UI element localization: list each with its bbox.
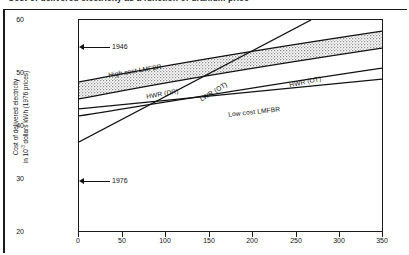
annotation-1946-label: 1946 [112, 43, 128, 50]
x-tick-label-100: 100 [150, 237, 180, 244]
x-tick-label-150: 150 [194, 237, 224, 244]
y-axis-title-line2: in 10-3 dollars kWh (1976 prices) [20, 52, 30, 182]
x-tick-label-250: 250 [281, 237, 311, 244]
annotation-1946-line [84, 47, 110, 48]
figure-caption-truncated: Cost of delivered electricity as a funct… [0, 0, 409, 7]
x-tick-label-0: 0 [63, 237, 93, 244]
figure-caption-text: Cost of delivered electricity as a funct… [8, 0, 249, 3]
curves-svg [79, 20, 382, 231]
x-tick-label-200: 200 [237, 237, 267, 244]
annotation-1976-line [84, 181, 110, 182]
x-tick-label-350: 350 [367, 237, 397, 244]
figure-uranium-price-electricity-cost: Cost of delivered electricity as a funct… [0, 0, 409, 255]
lmfbr-band [79, 31, 382, 99]
annotation-1976-label: 1976 [112, 177, 128, 184]
y-axis-title: Cost of delivered electricity in 10-3 do… [12, 52, 30, 182]
y-axis-title-line1: Cost of delivered electricity [12, 52, 20, 182]
plot-area [78, 19, 383, 232]
x-tick-label-300: 300 [324, 237, 354, 244]
x-tick-label-50: 50 [107, 237, 137, 244]
y-tick-label-20: 20 [0, 228, 24, 235]
y-tick-label-60: 60 [0, 16, 24, 23]
